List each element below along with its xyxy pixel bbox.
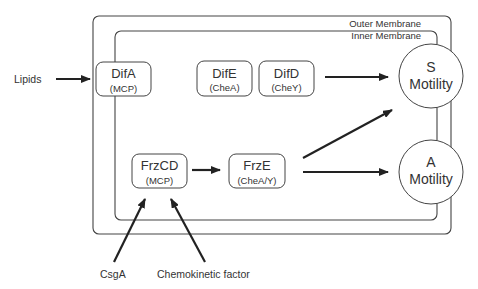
a-motility-node: A Motility <box>399 140 463 204</box>
frze-to-s-arrow <box>303 110 392 158</box>
dife-name: DifE <box>212 66 237 81</box>
s-motility-label: Motility <box>409 76 453 92</box>
signaling-diagram: Outer Membrane Inner Membrane Lipids Dif… <box>0 0 478 289</box>
inner-membrane <box>115 31 437 220</box>
difd-role: (CheY) <box>271 82 301 93</box>
dife-role: (CheA) <box>209 82 239 93</box>
chemokinetic-label: Chemokinetic factor <box>157 268 250 280</box>
inner-membrane-label: Inner Membrane <box>351 30 421 41</box>
frze-box: FrzE (CheA/Y) <box>229 154 285 188</box>
a-motility-letter: A <box>426 154 436 170</box>
frzcd-name: FrzCD <box>141 158 179 173</box>
frze-role: (CheA/Y) <box>237 175 276 186</box>
frzcd-box: FrzCD (MCP) <box>132 154 187 188</box>
frze-name: FrzE <box>243 158 271 173</box>
dife-box: DifE (CheA) <box>197 61 252 96</box>
difd-name: DifD <box>274 66 299 81</box>
chemokinetic-arrow <box>171 199 205 262</box>
outer-membrane <box>93 16 451 234</box>
s-motility-letter: S <box>426 59 435 75</box>
difd-box: DifD (CheY) <box>259 61 314 96</box>
a-motility-label: Motility <box>409 171 453 187</box>
outer-membrane-label: Outer Membrane <box>349 18 421 29</box>
lipids-label: Lipids <box>14 73 41 85</box>
csga-arrow <box>114 199 145 262</box>
difa-box: DifA (MCP) <box>96 62 151 96</box>
difa-role: (MCP) <box>110 83 137 94</box>
s-motility-node: S Motility <box>399 44 463 108</box>
frzcd-role: (MCP) <box>146 175 173 186</box>
csga-label: CsgA <box>100 268 126 280</box>
difa-name: DifA <box>111 66 136 81</box>
